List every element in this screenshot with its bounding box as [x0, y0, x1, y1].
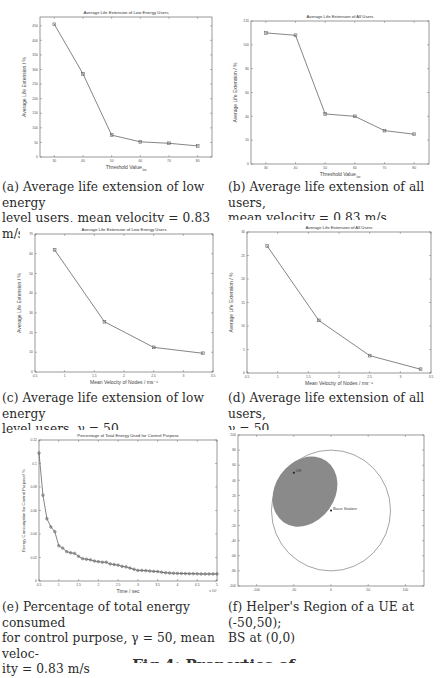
chart-a: Average Life Extension of Low Energy Use…: [12, 5, 217, 175]
y-tick-label: 40: [29, 291, 33, 295]
y-tick-label: 120: [243, 19, 249, 23]
x-tick-label: 3: [137, 583, 139, 587]
x-tick-label: 0.5: [37, 583, 42, 587]
x-axis-label: Threshold Value low: [106, 164, 147, 172]
x-tick-label: 3.5: [429, 375, 434, 379]
y-axis-label: Average Life Extension / %: [21, 56, 27, 116]
x-tick-label: 60: [138, 159, 142, 163]
caption-a-line1: (a) Average life extension of low energy: [2, 180, 224, 211]
y-tick-label: 10: [29, 350, 33, 354]
y-tick-label: 150: [32, 111, 38, 115]
y-tick-label: 0.1: [32, 462, 37, 466]
caption-e-line3: ity = 0.83 m/s: [2, 662, 224, 678]
chart-b-svg: Average Life Extension of All Users30405…: [229, 5, 439, 175]
point-label: Base Station: [333, 506, 357, 511]
x-tick-label: 5: [216, 583, 218, 587]
y-tick-label: 0: [31, 370, 33, 374]
y-tick-label: 0: [36, 155, 38, 159]
chart-f-svg: -100-50050100-100-80-60-40-2002040608010…: [224, 430, 436, 598]
point-marker: [330, 510, 332, 512]
x-tick-label: 3.5: [155, 583, 160, 587]
y-tick-label: 100: [230, 433, 236, 437]
y-tick-label: 0.12: [30, 438, 37, 442]
chart-d: Average Life Extension of All Users0.511…: [229, 220, 441, 390]
caption-e: (e) Percentage of total energy consumed …: [2, 600, 224, 678]
y-tick-label: 0.04: [30, 532, 37, 536]
x-multiplier: x 10⁴: [209, 589, 217, 593]
y-tick-label: 0.02: [30, 556, 37, 560]
plot-frame: [247, 232, 431, 373]
y-tick-label: 40: [232, 479, 236, 483]
figure-title-text: Fig 4: Properties of ...: [132, 656, 316, 663]
x-tick-label: 1.5: [92, 374, 97, 378]
x-tick-label: 3: [182, 374, 184, 378]
y-tick-label: 0: [234, 509, 236, 513]
chart-d-svg: Average Life Extension of All Users0.511…: [229, 220, 441, 390]
caption-d-line1: (d) Average life extension of all users,: [228, 391, 448, 422]
chart-title: Percentage of Total Energy Used for Cont…: [77, 433, 179, 438]
y-tick-label: 60: [232, 463, 236, 467]
y-tick-label: 0.08: [30, 485, 37, 489]
x-tick-label: 40: [81, 159, 85, 163]
chart-c: Average Life Extension of Low Energy Use…: [20, 222, 220, 390]
y-tick-label: 40: [245, 115, 249, 119]
series-line: [39, 453, 217, 574]
y-axis-label: Average Life Extension / %: [16, 272, 22, 332]
x-tick-label: 60: [353, 166, 357, 170]
x-tick-label: 70: [167, 159, 171, 163]
x-tick-label: 1: [58, 583, 60, 587]
y-tick-label: 30: [29, 311, 33, 315]
y-tick-label: 450: [32, 24, 38, 28]
series-line: [54, 24, 197, 146]
y-tick-label: 0.06: [30, 509, 37, 513]
series-line: [55, 250, 203, 354]
x-tick-label: 2.5: [151, 374, 156, 378]
x-tick-label: 80: [412, 166, 416, 170]
chart-e: Percentage of Total Energy Used for Cont…: [15, 430, 225, 598]
panel-d: Average Life Extension of All Users0.511…: [224, 215, 448, 425]
x-tick-label: 40: [294, 166, 298, 170]
y-tick-label: -80: [231, 569, 236, 573]
x-tick-label: 50: [366, 588, 370, 592]
x-tick-label: 0.5: [33, 374, 38, 378]
caption-f-line2: BS at (0,0): [228, 631, 448, 647]
x-tick-label: 1: [277, 375, 279, 379]
x-tick-label: 1: [64, 374, 66, 378]
y-tick-label: 0: [247, 162, 249, 166]
x-tick-label: 4.5: [195, 583, 200, 587]
caption-c-line1: (c) Average life extension of low energy: [2, 391, 224, 422]
chart-title: Average Life Extension of All Users: [305, 225, 372, 230]
y-tick-label: 200: [32, 97, 38, 101]
y-tick-label: -60: [231, 554, 236, 558]
x-tick-label: 2.5: [116, 583, 121, 587]
chart-title: Average Life Extension of Low Energy Use…: [83, 10, 168, 15]
y-tick-label: 20: [29, 331, 33, 335]
y-tick-label: 30: [241, 230, 245, 234]
x-tick-label: 3: [399, 375, 401, 379]
caption-f: (f) Helper's Region of a UE at (-50,50);…: [228, 600, 448, 647]
x-tick-label: 0: [330, 588, 332, 592]
y-tick-label: 70: [29, 232, 33, 236]
panel-f: -100-50050100-100-80-60-40-2002040608010…: [224, 425, 448, 655]
y-tick-label: 10: [241, 324, 245, 328]
caption-b-line1: (b) Average life extension of all users,: [228, 180, 448, 211]
figure-title: Fig 4: Properties of ...: [0, 654, 448, 663]
x-tick-label: 1.5: [306, 375, 311, 379]
chart-a-svg: Average Life Extension of Low Energy Use…: [12, 5, 217, 175]
y-tick-label: 100: [32, 126, 38, 130]
y-tick-label: -40: [231, 539, 236, 543]
chart-b: Average Life Extension of All Users30405…: [229, 5, 439, 175]
panel-b: Average Life Extension of All Users30405…: [224, 0, 448, 215]
panel-a: Average Life Extension of Low Energy Use…: [0, 0, 224, 215]
y-tick-label: 300: [32, 68, 38, 72]
y-tick-label: 20: [241, 277, 245, 281]
panel-c: Average Life Extension of Low Energy Use…: [0, 215, 224, 425]
x-tick-label: 2: [123, 374, 125, 378]
x-tick-label: 1.5: [76, 583, 81, 587]
x-tick-label: 2.5: [367, 375, 372, 379]
y-tick-label: 80: [245, 67, 249, 71]
x-axis-label: Mean Velocity of Nodes / ms⁻¹: [90, 379, 158, 385]
caption-e-line1: (e) Percentage of total energy consumed: [2, 600, 224, 631]
y-tick-label: 20: [232, 494, 236, 498]
y-tick-label: 250: [32, 82, 38, 86]
